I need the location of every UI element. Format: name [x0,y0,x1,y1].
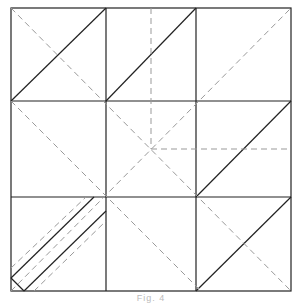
diag-solid-tl [11,8,106,101]
dashed-lines [11,8,291,291]
figure-caption: Fig. 4 [0,293,302,303]
crease-pattern-diagram [0,0,302,306]
strip-dashed-upper [11,197,86,268]
strip-solid-lower [24,211,106,291]
strip-solid-upper [11,197,94,278]
diag-solid-br [196,197,291,291]
